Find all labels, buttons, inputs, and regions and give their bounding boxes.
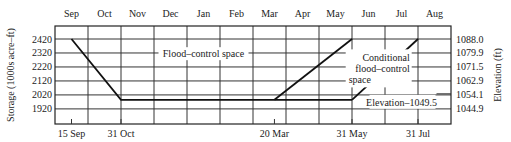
storage-tick: 1920 xyxy=(32,103,52,114)
storage-tick: 2020 xyxy=(32,89,52,100)
month-label: Jul xyxy=(396,8,408,19)
reservoir-operation-chart: SepOctNovDecJanFebMarAprMayJunJulAug 15 … xyxy=(0,0,511,142)
date-label: 31 Oct xyxy=(108,128,135,139)
elevation-tick: 1054.1 xyxy=(456,89,484,100)
month-labels: SepOctNovDecJanFebMarAprMayJunJulAug xyxy=(64,8,443,19)
date-label: 20 Mar xyxy=(260,128,290,139)
month-label: Dec xyxy=(162,8,179,19)
date-labels: 15 Sep31 Oct20 Mar31 May31 Jul xyxy=(58,119,431,139)
annotation-conditional-space-line: space xyxy=(349,74,372,85)
month-label: Mar xyxy=(261,8,278,19)
storage-tick: 2320 xyxy=(32,47,52,58)
elevation-tick-labels: 1088.01079.91071.51062.91054.11044.9 xyxy=(456,34,484,115)
storage-tick-labels: 242023202220212020201920 xyxy=(32,34,52,115)
date-label: 15 Sep xyxy=(58,128,86,139)
annotation-conditional-space-line: Conditional xyxy=(362,52,409,63)
month-label: Jun xyxy=(362,8,376,19)
month-label: Oct xyxy=(97,8,112,19)
month-label: Nov xyxy=(129,8,146,19)
elevation-tick: 1079.9 xyxy=(456,47,484,58)
date-label: 31 Jul xyxy=(406,128,430,139)
annotation-elevation: Elevation–1049.5 xyxy=(366,97,437,108)
storage-tick: 2420 xyxy=(32,34,52,45)
month-label: Feb xyxy=(229,8,244,19)
month-label: Aug xyxy=(426,8,443,19)
month-label: May xyxy=(326,8,344,19)
storage-tick: 2120 xyxy=(32,75,52,86)
annotation-flood-control-space: Flood–control space xyxy=(163,48,245,59)
elevation-tick: 1044.9 xyxy=(456,103,484,114)
elevation-tick: 1088.0 xyxy=(456,34,484,45)
month-label: Jan xyxy=(197,8,210,19)
annotation-conditional-space-line: flood–control xyxy=(355,63,410,74)
month-label: Sep xyxy=(64,8,79,19)
date-label: 31 May xyxy=(337,128,368,139)
storage-tick: 2220 xyxy=(32,61,52,72)
y-axis-title: Storage (1000s acre–ft) xyxy=(5,28,17,122)
elevation-tick: 1062.9 xyxy=(456,75,484,86)
month-label: Apr xyxy=(295,8,311,19)
y2-axis-title: Elevation (ft) xyxy=(492,48,504,102)
elevation-tick: 1071.5 xyxy=(456,61,484,72)
